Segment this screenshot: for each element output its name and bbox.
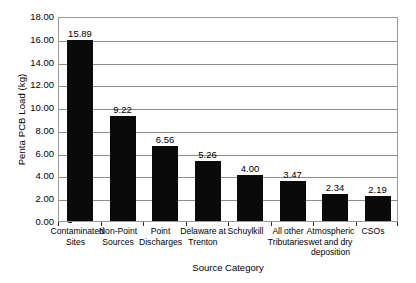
y-axis-tick-label: 18.00 xyxy=(14,12,54,22)
x-axis-title: Source Category xyxy=(58,262,398,274)
y-axis-tick-label: 0.00 xyxy=(14,217,54,227)
bar-slot: 2.19 xyxy=(357,18,400,221)
bars-group: 15.899.226.565.264.003.472.342.19 xyxy=(59,18,397,221)
bar-slot: 5.26 xyxy=(187,18,230,221)
bar-slot: 2.34 xyxy=(314,18,357,221)
y-axis-tick-label: 16.00 xyxy=(14,35,54,45)
bar-chart-figure: Penta PCB Load (kg) 0.002.004.006.008.00… xyxy=(0,0,416,283)
bar-value-label: 15.89 xyxy=(55,28,105,39)
x-axis-category-label: CSOs xyxy=(348,226,398,237)
bar-slot: 3.47 xyxy=(272,18,315,221)
bar[interactable] xyxy=(110,116,136,221)
y-axis-tick-label: 6.00 xyxy=(14,149,54,159)
y-axis-tick-label: 8.00 xyxy=(14,126,54,136)
bar[interactable] xyxy=(67,40,93,221)
bar-value-label: 5.26 xyxy=(183,149,233,160)
bar[interactable] xyxy=(195,161,221,221)
y-axis-tick-labels: 0.002.004.006.008.0010.0012.0014.0016.00… xyxy=(14,17,54,222)
bar[interactable] xyxy=(237,175,263,221)
bar-slot: 15.89 xyxy=(59,18,102,221)
bar[interactable] xyxy=(280,181,306,221)
bar-value-label: 3.47 xyxy=(268,169,318,180)
bar-slot: 4.00 xyxy=(229,18,272,221)
bar-slot: 9.22 xyxy=(102,18,145,221)
plot-area: 15.899.226.565.264.003.472.342.19 xyxy=(58,17,398,222)
y-axis-tick-label: 4.00 xyxy=(14,171,54,181)
bar-value-label: 9.22 xyxy=(98,104,148,115)
y-axis-tick-label: 14.00 xyxy=(14,58,54,68)
x-axis-category-labels: Contaminated SitesNon-Point SourcesPoint… xyxy=(58,226,398,260)
bar-value-label: 6.56 xyxy=(140,134,190,145)
y-axis-tick-label: 12.00 xyxy=(14,80,54,90)
bar[interactable] xyxy=(365,196,391,221)
y-axis-tick-label: 2.00 xyxy=(14,194,54,204)
bar[interactable] xyxy=(152,146,178,221)
y-axis-tick-label: 10.00 xyxy=(14,103,54,113)
bar[interactable] xyxy=(322,194,348,221)
bar-value-label: 2.19 xyxy=(353,184,403,195)
bar-slot: 6.56 xyxy=(144,18,187,221)
